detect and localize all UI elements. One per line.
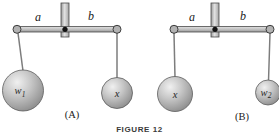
balance-beam [174, 27, 271, 33]
panel-a-caption: (A) [65, 109, 80, 121]
arm-length-a-label: a [35, 10, 41, 24]
balance-figure: a b w1 x (A) a b x w2 (B) [0, 0, 279, 132]
diagram-b: a b x w2 (B) [158, 3, 280, 123]
right-wire [269, 33, 271, 81]
figure-caption: FIGURE 12 [116, 125, 163, 132]
pivot-icon [212, 27, 217, 32]
pivot-icon [62, 27, 67, 32]
figure-canvas: a b w1 x (A) a b x w2 (B) FIGURE 12 [0, 0, 279, 132]
left-wire [18, 33, 23, 71]
beam-end-hook-left-icon [13, 25, 21, 33]
beam-end-hook-right-icon [113, 25, 121, 33]
sphere-x-label: x [172, 89, 178, 100]
beam-end-hook-right-icon [266, 25, 274, 33]
panel-b-caption: (B) [235, 111, 250, 123]
beam-end-hook-left-icon [170, 25, 178, 33]
sphere-x-label: x [114, 88, 120, 99]
diagram-a: a b w1 x (A) [3, 3, 133, 121]
arm-length-b-label: b [240, 9, 246, 23]
left-wire [174, 33, 175, 78]
arm-length-a-label: a [189, 10, 195, 24]
arm-length-b-label: b [88, 9, 94, 23]
